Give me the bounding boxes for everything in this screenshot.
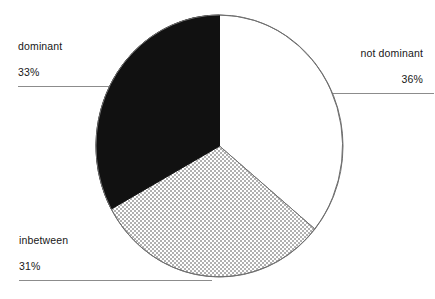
callout-inbetween-label: inbetween <box>19 235 68 246</box>
callout-inbetween-value: 31% <box>19 261 68 272</box>
callout-inbetween: inbetween 31% <box>19 235 68 271</box>
callout-dominant: dominant 33% <box>18 41 62 77</box>
callout-dominant-value: 33% <box>18 67 62 78</box>
callout-not-dominant-value: 36% <box>360 74 423 85</box>
callout-dominant-label: dominant <box>18 41 62 52</box>
callout-not-dominant: not dominant 36% <box>360 48 423 84</box>
callout-not-dominant-label: not dominant <box>360 48 423 59</box>
pie-chart-figure: dominant 33% not dominant 36% inbetween … <box>0 0 435 299</box>
